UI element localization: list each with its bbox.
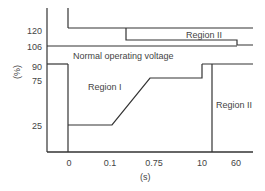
normal-operating-label: Normal operating voltage (73, 51, 174, 61)
region1-boundary (68, 64, 202, 125)
y-tick-75: 75 (20, 76, 42, 86)
y-tick-120: 120 (20, 26, 42, 36)
region2-top-label: Region II (186, 30, 222, 40)
y-tick-106: 106 (20, 42, 42, 52)
x-tick-10: 10 (190, 158, 214, 168)
region2-right-label: Region II (216, 100, 252, 110)
region1-label: Region I (88, 82, 122, 92)
y-tick-25: 25 (20, 121, 42, 131)
x-tick-0-1: 0.1 (98, 158, 122, 168)
y-tick-90: 90 (20, 62, 42, 72)
x-tick-60: 60 (224, 158, 248, 168)
x-tick-0: 0 (57, 158, 81, 168)
x-axis-label: (s) (140, 172, 151, 182)
x-tick-0-75: 0.75 (142, 158, 166, 168)
